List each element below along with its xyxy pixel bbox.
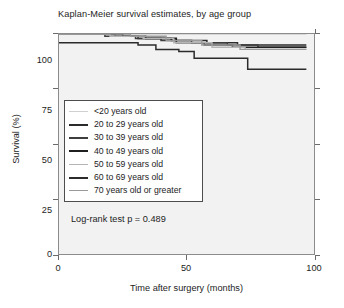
legend-item-20-29: 20 to 29 years old bbox=[69, 118, 197, 131]
legend-label-20-29: 20 to 29 years old bbox=[94, 118, 163, 131]
legend-swatch-lt20 bbox=[69, 111, 88, 112]
legend-item-lt20: <20 years old bbox=[69, 105, 197, 118]
log-rank-annotation: Log-rank test p = 0.489 bbox=[71, 214, 166, 224]
legend-swatch-70plus bbox=[69, 190, 88, 191]
legend-label-lt20: <20 years old bbox=[94, 105, 146, 118]
legend-swatch-50-59 bbox=[69, 164, 88, 165]
legend-item-30-39: 30 to 39 years old bbox=[69, 131, 197, 144]
legend-label-60-69: 60 to 69 years old bbox=[94, 171, 163, 184]
ytick-label-50: 50 bbox=[26, 155, 52, 165]
ytick-label-0: 0 bbox=[26, 249, 52, 259]
legend-label-50-59: 50 to 59 years old bbox=[94, 158, 163, 171]
ytick-label-100: 100 bbox=[26, 55, 52, 65]
legend-item-40-49: 40 to 49 years old bbox=[69, 145, 197, 158]
chart-title: Kaplan-Meier survival estimates, by age … bbox=[58, 9, 251, 19]
x-axis-title: Time after surgery (months) bbox=[58, 283, 315, 293]
ytick-label-25: 25 bbox=[26, 205, 52, 215]
legend-label-70plus: 70 years old or greater bbox=[94, 184, 181, 197]
legend-item-70plus: 70 years old or greater bbox=[69, 184, 197, 197]
legend-label-30-39: 30 to 39 years old bbox=[94, 131, 163, 144]
kaplan-meier-figure: Kaplan-Meier survival estimates, by age … bbox=[0, 0, 344, 308]
legend: <20 years old 20 to 29 years old 30 to 3… bbox=[64, 100, 203, 202]
legend-label-40-49: 40 to 49 years old bbox=[94, 145, 163, 158]
ytick-label-75: 75 bbox=[26, 105, 52, 115]
legend-swatch-40-49 bbox=[69, 150, 88, 152]
legend-item-60-69: 60 to 69 years old bbox=[69, 171, 197, 184]
legend-item-50-59: 50 to 59 years old bbox=[69, 158, 197, 171]
legend-swatch-30-39 bbox=[69, 137, 88, 139]
xtick-label-100: 100 bbox=[297, 263, 331, 273]
legend-swatch-60-69 bbox=[69, 177, 88, 179]
y-axis-title: Survival (%) bbox=[11, 79, 21, 199]
xtick-label-50: 50 bbox=[169, 263, 203, 273]
xtick-label-0: 0 bbox=[41, 263, 75, 273]
legend-swatch-20-29 bbox=[69, 124, 88, 126]
